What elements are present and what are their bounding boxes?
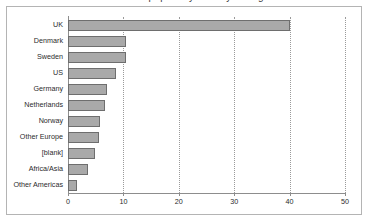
x-tick-mark	[345, 193, 346, 196]
x-tick-label: 50	[341, 197, 349, 206]
x-axis-line	[68, 193, 346, 194]
bar	[68, 84, 107, 95]
bar	[68, 100, 105, 111]
bar	[68, 180, 77, 191]
chart-plot-wrapper: UKDenmarkSwedenUSGermanyNetherlandsNorwa…	[0, 0, 369, 222]
gridline	[345, 17, 346, 193]
x-tick-mark	[123, 193, 124, 196]
bar	[68, 20, 290, 31]
x-tick-label: 10	[119, 197, 127, 206]
bar-row	[68, 97, 345, 113]
x-tick-mark	[290, 193, 291, 196]
bar-row	[68, 177, 345, 193]
bar	[68, 68, 116, 79]
x-tick-label: 40	[286, 197, 294, 206]
plot-area	[68, 17, 345, 193]
category-label: UK	[8, 17, 66, 33]
category-label: Other Europe	[8, 129, 66, 145]
bar-row	[68, 129, 345, 145]
x-tick-label: 30	[230, 197, 238, 206]
category-label: US	[8, 65, 66, 81]
bar-row	[68, 49, 345, 65]
bar	[68, 116, 100, 127]
bar	[68, 148, 95, 159]
bar-row	[68, 113, 345, 129]
bar-row	[68, 65, 345, 81]
category-label: Norway	[8, 113, 66, 129]
category-label: Other Americas	[8, 177, 66, 193]
bar-row	[68, 17, 345, 33]
bar	[68, 52, 126, 63]
bar-row	[68, 81, 345, 97]
category-label: Germany	[8, 81, 66, 97]
bar	[68, 164, 88, 175]
x-tick-mark	[68, 193, 69, 196]
bar	[68, 36, 126, 47]
x-tick-mark	[234, 193, 235, 196]
category-label: Africa/Asia	[8, 161, 66, 177]
x-tick-mark	[179, 193, 180, 196]
bar-row	[68, 145, 345, 161]
bar	[68, 132, 99, 143]
category-label: Sweden	[8, 49, 66, 65]
bar-series	[68, 17, 345, 193]
category-label: Denmark	[8, 33, 66, 49]
bar-row	[68, 33, 345, 49]
x-tick-label: 20	[175, 197, 183, 206]
bar-row	[68, 161, 345, 177]
category-label: [blank]	[8, 145, 66, 161]
category-label: Netherlands	[8, 97, 66, 113]
category-axis-labels: UKDenmarkSwedenUSGermanyNetherlandsNorwa…	[8, 17, 66, 193]
x-tick-label: 0	[66, 197, 70, 206]
chart-screenshot: Number of papers by country of origin UK…	[0, 0, 369, 222]
